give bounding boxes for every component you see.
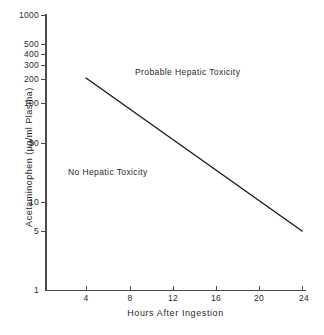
x-tick-label-20: 20 bbox=[254, 293, 264, 303]
y-tick-1000 bbox=[41, 15, 46, 16]
x-axis-line bbox=[45, 290, 306, 291]
y-tick-50 bbox=[41, 143, 46, 144]
x-tick-label-24: 24 bbox=[299, 293, 309, 303]
y-tick-label-5: 5 bbox=[34, 226, 39, 236]
y-tick-100 bbox=[41, 103, 46, 104]
x-tick-4 bbox=[86, 286, 87, 291]
x-tick-label-8: 8 bbox=[127, 293, 132, 303]
x-tick-16 bbox=[216, 286, 217, 291]
y-axis-title: Acetaminophen (µg/ml Plasma) bbox=[24, 42, 34, 272]
y-tick-label-1000: 1000 bbox=[19, 10, 39, 20]
y-tick-10 bbox=[41, 202, 46, 203]
treatment-line-layer bbox=[0, 0, 324, 335]
x-tick-12 bbox=[173, 286, 174, 291]
annotation-probable-hepatic-toxicity: Probable Hepatic Toxicity bbox=[135, 67, 240, 77]
y-axis-line bbox=[45, 14, 47, 291]
x-tick-8 bbox=[130, 286, 131, 291]
x-tick-label-16: 16 bbox=[211, 293, 221, 303]
x-tick-24 bbox=[302, 286, 303, 291]
x-axis-title: Hours After Ingestion bbox=[45, 308, 306, 318]
y-tick-label-1: 1 bbox=[34, 285, 39, 295]
y-tick-200 bbox=[41, 79, 46, 80]
y-tick-300 bbox=[41, 65, 46, 66]
y-tick-400 bbox=[41, 54, 46, 55]
x-tick-20 bbox=[259, 286, 260, 291]
treatment-line bbox=[86, 78, 302, 231]
x-tick-label-12: 12 bbox=[168, 293, 178, 303]
nomogram-chart: 1000 500 400 300 200 100 50 10 5 1 4 8 1… bbox=[0, 0, 324, 335]
annotation-no-hepatic-toxicity: No Hepatic Toxicity bbox=[68, 167, 148, 177]
y-tick-5 bbox=[41, 231, 46, 232]
y-tick-500 bbox=[41, 44, 46, 45]
x-tick-label-4: 4 bbox=[83, 293, 88, 303]
